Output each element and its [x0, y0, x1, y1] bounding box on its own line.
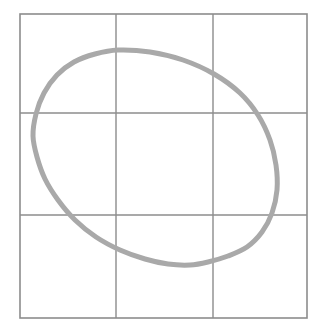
figure-svg	[0, 0, 326, 333]
figure-canvas	[0, 0, 326, 333]
